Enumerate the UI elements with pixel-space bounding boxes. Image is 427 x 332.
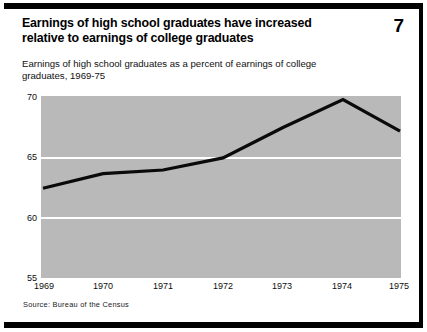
y-tick-70: 70 [15,92,37,102]
line-chart: 70 65 60 55 1969 1970 1971 1972 1973 197… [0,0,427,332]
x-axis-labels: 1969 1970 1971 1972 1973 1974 1975 [41,281,401,295]
y-tick-60: 60 [15,213,37,223]
x-tick-1969: 1969 [34,281,54,291]
x-tick-1972: 1972 [213,281,233,291]
x-tick-1971: 1971 [153,281,173,291]
series-line [41,96,401,278]
y-tick-65: 65 [15,152,37,162]
x-tick-1974: 1974 [332,281,352,291]
plot-area [41,96,401,278]
source-note: Source: Bureau of the Census [23,300,129,309]
x-tick-1970: 1970 [93,281,113,291]
x-tick-1973: 1973 [272,281,292,291]
y-axis-labels: 70 65 60 55 [13,96,37,278]
figure-page: Earnings of high school graduates have i… [0,0,427,332]
x-tick-1975: 1975 [389,281,409,291]
